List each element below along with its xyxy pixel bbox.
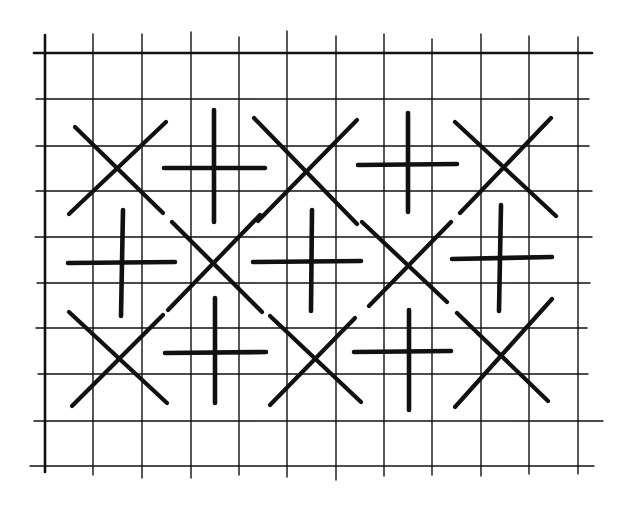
stitch-horizontal bbox=[354, 351, 451, 352]
stitch-horizontal bbox=[253, 261, 361, 262]
stitch-diagram-svg bbox=[0, 0, 631, 515]
stitch-vertical bbox=[311, 210, 312, 311]
stitch-vertical bbox=[499, 205, 501, 311]
stitch-diagram bbox=[0, 0, 631, 515]
stitch-vertical bbox=[121, 210, 123, 316]
